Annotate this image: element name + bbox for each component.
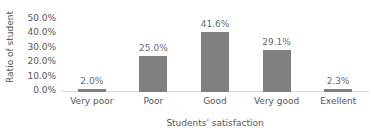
x-axis-label-exellent: Exellent (307, 96, 369, 106)
bar-very-poor[interactable] (78, 89, 106, 92)
x-axis-label-very-good: Very good (246, 96, 308, 106)
x-axis-label-very-poor: Very poor (61, 96, 123, 106)
bar-series: 2.0% 25.0% 41.6% 29.1% 2.3% (61, 20, 369, 92)
bar-value-label: 29.1% (262, 38, 291, 47)
y-axis-tick-labels: 50.0% 40.0% 30.0% 20.0% 10.0% 0.0% (16, 14, 56, 98)
plot-area: 2.0% 25.0% 41.6% 29.1% 2.3% (61, 20, 369, 92)
bar-value-label: 41.6% (201, 20, 230, 29)
bar-slot-poor: 25.0% (123, 20, 185, 92)
x-axis-label-poor: Poor (123, 96, 185, 106)
y-axis-tick-label: 20.0% (16, 57, 56, 66)
bar-very-good[interactable] (263, 50, 291, 92)
bar-slot-very-good: 29.1% (246, 20, 308, 92)
y-axis-tick-label: 10.0% (16, 72, 56, 81)
x-axis-label-good: Good (184, 96, 246, 106)
y-axis-title: Ratio of student (5, 6, 15, 88)
y-axis-tick-label: 30.0% (16, 43, 56, 52)
x-axis-category-labels: Very poor Poor Good Very good Exellent (61, 96, 369, 106)
bar-chart: Ratio of student 50.0% 40.0% 30.0% 20.0%… (0, 0, 374, 139)
bar-slot-very-poor: 2.0% (61, 20, 123, 92)
bar-good[interactable] (201, 32, 229, 92)
bar-value-label: 2.0% (80, 77, 103, 86)
x-axis-title: Students' satisfaction (61, 118, 369, 128)
bar-exellent[interactable] (324, 89, 352, 92)
bar-poor[interactable] (139, 56, 167, 92)
bar-slot-good: 41.6% (184, 20, 246, 92)
y-axis-tick-label: 40.0% (16, 28, 56, 37)
bar-value-label: 2.3% (327, 77, 350, 86)
y-axis-tick-label: 0.0% (16, 86, 56, 95)
bar-slot-exellent: 2.3% (307, 20, 369, 92)
y-axis-tick-label: 50.0% (16, 14, 56, 23)
bar-value-label: 25.0% (139, 44, 168, 53)
